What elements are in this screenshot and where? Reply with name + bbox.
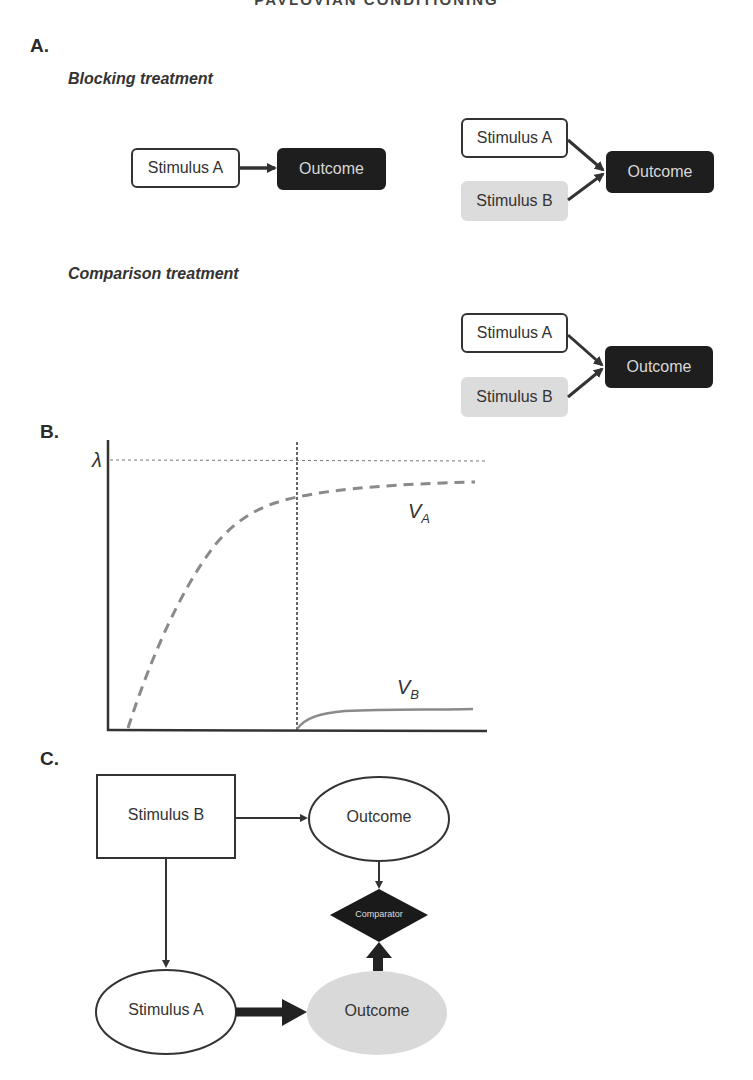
stimulus-b-text: Stimulus B [97, 806, 235, 824]
outcome-bottom-text: Outcome [307, 1002, 447, 1020]
arrow-icon [282, 999, 307, 1026]
stimulus-a-text: Stimulus A [96, 1001, 236, 1019]
outcome-top-text: Outcome [309, 808, 449, 826]
comparator-text: Comparator [330, 909, 428, 919]
arrow-icon [366, 942, 392, 958]
